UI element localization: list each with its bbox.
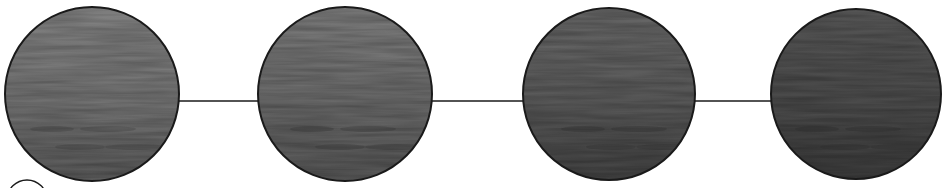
circle-node-4 [771, 9, 941, 179]
diagram-canvas [0, 0, 943, 188]
circle-node-3 [523, 8, 698, 180]
circle-node-1 [5, 7, 179, 181]
circle-sequence-diagram [0, 0, 943, 188]
partial-circle-outline [7, 180, 47, 188]
circle-node-2 [258, 7, 432, 181]
circle-nodes [5, 7, 941, 181]
partial-outline [7, 180, 47, 188]
